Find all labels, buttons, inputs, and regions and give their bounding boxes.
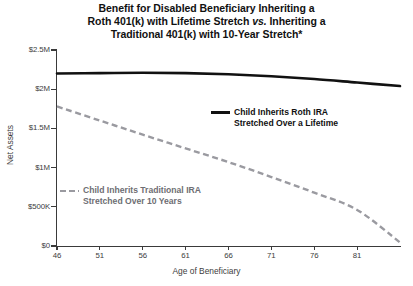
- chart-title-line-2-post: Inheriting a: [267, 15, 326, 27]
- x-tick-label: 66: [224, 251, 233, 260]
- series-layer: [0, 0, 413, 286]
- y-tick-mark: [51, 49, 56, 50]
- x-tick-mark: [185, 246, 186, 250]
- x-tick-label: 56: [138, 251, 147, 260]
- x-tick-mark: [56, 246, 57, 250]
- x-tick-label: 61: [181, 251, 190, 260]
- x-tick-mark: [357, 246, 358, 250]
- x-tick-label: 51: [96, 251, 105, 260]
- legend-roth-line1: Child Inherits Roth IRA: [234, 107, 328, 118]
- y-tick-mark: [51, 245, 56, 246]
- x-tick-label: 76: [310, 251, 319, 260]
- chart-title: Benefit for Disabled Beneficiary Inherit…: [0, 2, 413, 42]
- y-axis-line: [56, 49, 57, 247]
- y-tick-label: $2.5M: [29, 45, 50, 54]
- legend-roth-row1: Child Inherits Roth IRA: [211, 107, 338, 118]
- x-tick-mark: [99, 246, 100, 250]
- y-tick-mark: [51, 128, 56, 129]
- y-tick-label: $2M: [35, 84, 50, 93]
- x-tick-mark: [142, 246, 143, 250]
- y-tick-mark: [51, 167, 56, 168]
- y-tick-label: $1M: [35, 163, 50, 172]
- legend-traditional-ira: Child Inherits Traditional IRA Stretched…: [60, 185, 201, 206]
- x-tick-mark: [228, 246, 229, 250]
- y-tick-mark: [51, 89, 56, 90]
- x-tick-mark: [314, 246, 315, 250]
- legend-roth-ira: Child Inherits Roth IRA Stretched Over a…: [211, 107, 338, 128]
- y-tick-label: $500K: [28, 202, 50, 211]
- y-tick-label: $0: [42, 241, 50, 250]
- legend-traditional-row1: Child Inherits Traditional IRA: [60, 185, 201, 196]
- chart-title-line-3: Traditional 401(k) with 10-Year Stretch*: [0, 28, 413, 41]
- chart-container: Benefit for Disabled Beneficiary Inherit…: [0, 0, 413, 286]
- x-tick-label: 71: [267, 251, 276, 260]
- y-tick-mark: [51, 206, 56, 207]
- x-tick-mark: [271, 246, 272, 250]
- solid-line-swatch-icon: [211, 107, 230, 118]
- chart-title-line-2: Roth 401(k) with Lifetime Stretch vs. In…: [0, 15, 413, 28]
- legend-roth-line2: Stretched Over a Lifetime: [211, 118, 338, 129]
- dashed-line-swatch-icon: [60, 185, 79, 196]
- x-axis-title: Age of Beneficiary: [0, 266, 413, 276]
- chart-title-versus: vs.: [252, 15, 266, 27]
- y-tick-label: $1.5M: [29, 123, 50, 132]
- legend-traditional-line2: Stretched Over 10 Years: [60, 196, 201, 207]
- x-tick-label: 46: [53, 251, 62, 260]
- y-axis-title: Net Assets: [5, 105, 15, 185]
- legend-traditional-line1: Child Inherits Traditional IRA: [83, 185, 201, 196]
- chart-title-line-1: Benefit for Disabled Beneficiary Inherit…: [0, 2, 413, 15]
- roth-ira-solid-line: [57, 73, 400, 86]
- chart-title-line-2-pre: Roth 401(k) with Lifetime Stretch: [88, 15, 253, 27]
- x-tick-label: 81: [353, 251, 362, 260]
